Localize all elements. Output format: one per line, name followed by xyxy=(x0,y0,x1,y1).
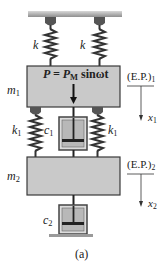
damper-2-label: c2 xyxy=(43,213,53,228)
spring-label-top-right: k xyxy=(80,38,85,53)
spring-mid-right xyxy=(92,115,103,157)
coordinate-x2-label: x2 xyxy=(148,197,157,211)
damper-1-label: c1 xyxy=(44,123,54,138)
spring-mount-mid-left xyxy=(30,107,41,115)
spring-label-top-left: k xyxy=(33,38,38,53)
damper-2 xyxy=(59,195,87,234)
spring-mount-top-left xyxy=(45,17,56,26)
spring-label-mid-right: k1 xyxy=(108,123,118,138)
spring-label-mid-left: k1 xyxy=(12,123,22,138)
equilibrium-2-label: (E.P.)2 xyxy=(127,158,155,172)
mass-1-label: m1 xyxy=(7,83,20,98)
ceiling xyxy=(28,11,122,17)
spring-top-right xyxy=(94,25,105,66)
spring-mid-left xyxy=(30,115,41,157)
force-label: P = PM sinωt xyxy=(43,67,108,82)
coordinate-x1-label: x1 xyxy=(148,111,157,125)
figure-caption: (a) xyxy=(75,247,88,262)
spring-top-left xyxy=(45,25,56,66)
mass-2-label: m2 xyxy=(7,169,20,184)
ground xyxy=(49,234,93,237)
mass-2-block xyxy=(27,157,120,195)
damper-1 xyxy=(59,107,87,157)
spring-mount-mid-right xyxy=(92,107,103,115)
spring-mount-top-right xyxy=(94,17,105,26)
equilibrium-1-label: (E.P.)1 xyxy=(127,70,155,84)
